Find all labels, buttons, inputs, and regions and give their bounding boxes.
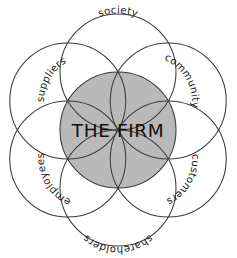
stakeholder-diagram-canvas: THE FIRM society community customers sha… [0,0,237,258]
stakeholder-diagram: THE FIRM society community customers sha… [0,0,237,258]
firm-center-label: THE FIRM [71,120,165,141]
stakeholder-label-shareholders: shareholders [81,233,155,256]
stakeholder-label-society: society [96,4,139,19]
stakeholder-label-suppliers-text: suppliers [35,55,68,103]
stakeholder-label-suppliers: suppliers [35,55,68,103]
stakeholder-label-shareholders-text: shareholders [81,233,155,256]
stakeholder-label-society-text: society [96,4,139,19]
